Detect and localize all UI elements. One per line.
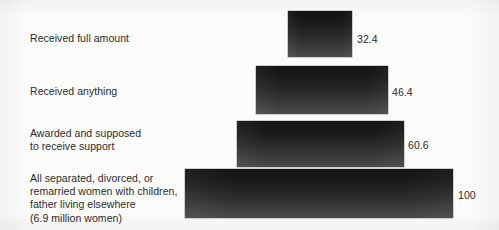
funnel-bar-awarded-and-supposed — [237, 121, 404, 167]
category-label-received-full-amount: Received full amount — [30, 32, 129, 45]
bar-sheen — [288, 11, 352, 57]
funnel-chart: Received full amount 32.4 Received anyth… — [0, 0, 499, 230]
value-label-received-anything: 46.4 — [392, 86, 413, 98]
value-label-received-full-amount: 32.4 — [357, 33, 378, 45]
bar-sheen — [185, 169, 453, 218]
category-label-awarded-and-supposed: Awarded and supposed to receive support — [30, 127, 141, 153]
category-label-received-anything: Received anything — [30, 85, 117, 98]
bar-sheen — [237, 121, 404, 167]
category-label-all-separated-divorced-remarried: All separated, divorced, or remarried wo… — [30, 172, 177, 225]
funnel-bar-all-separated-divorced-remarried — [185, 169, 453, 218]
value-label-awarded-and-supposed: 60.6 — [408, 139, 429, 151]
bar-sheen — [256, 66, 388, 114]
funnel-bar-received-full-amount — [288, 11, 352, 57]
funnel-bar-received-anything — [256, 66, 388, 114]
value-label-all-separated-divorced-remarried: 100 — [458, 189, 476, 201]
